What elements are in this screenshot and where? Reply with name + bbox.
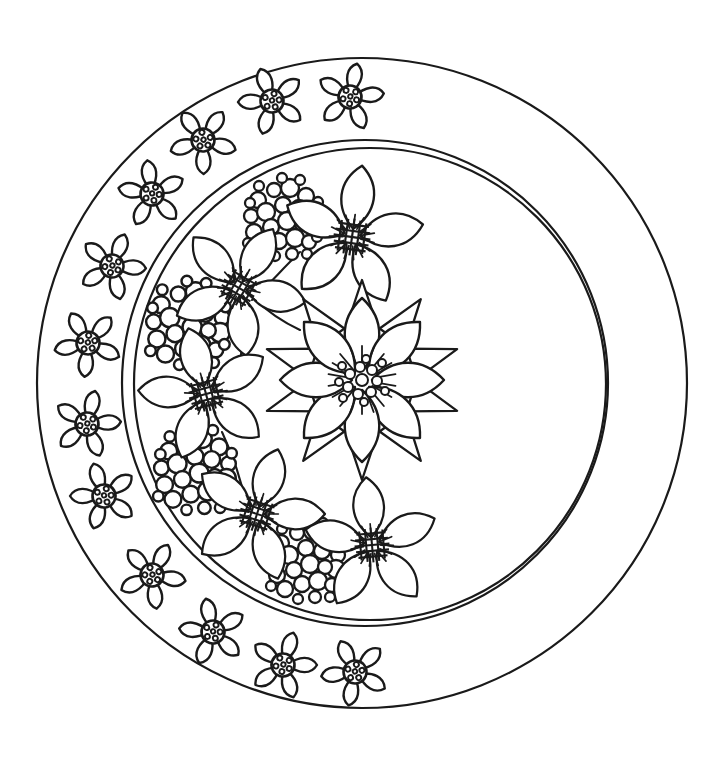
mandala-artwork bbox=[0, 0, 713, 757]
coloring-page-canvas bbox=[0, 0, 713, 757]
